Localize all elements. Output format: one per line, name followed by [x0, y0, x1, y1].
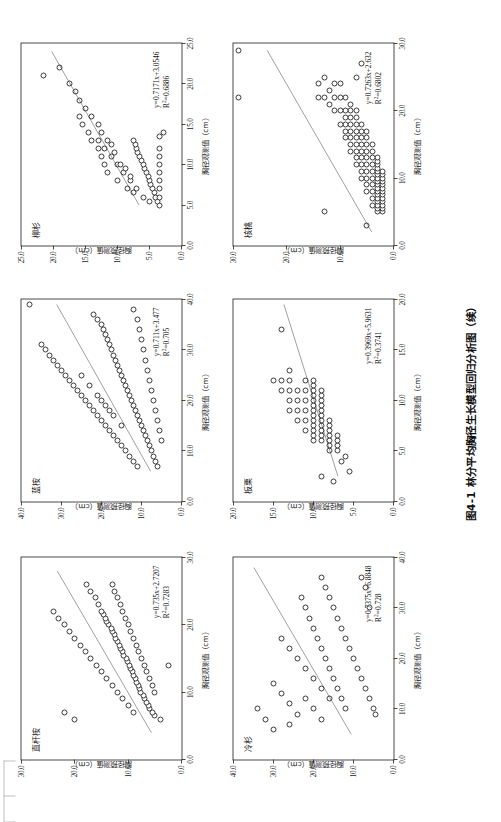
- x-axis-title: 胸径观测值（cm）: [410, 628, 421, 688]
- y-axis-tick-label: 30.0: [57, 507, 65, 519]
- x-axis-tick: [181, 450, 185, 451]
- regression-annotation: y=0.711x+3.477R2=0.705: [151, 307, 171, 356]
- y-axis-tick-label: 0.0: [389, 251, 397, 259]
- x-axis-tick-label: 0.0: [186, 497, 194, 505]
- x-axis-tick: [393, 177, 397, 178]
- x-axis-tick-label: 20.0: [186, 78, 194, 90]
- x-axis-tick-label: 30.0: [186, 551, 194, 563]
- regression-equation: y=0.3969x+5.9631: [363, 307, 372, 363]
- x-axis-tick: [393, 450, 397, 451]
- chart-panel-直杆桉: 0.010.020.030.00.010.020.030.0胸径观测值（cm）胸…: [14, 548, 222, 804]
- regression-annotation: y=0.735x+2.7207R2=0.7283: [151, 565, 171, 618]
- y-axis-tick-label: 15.0: [269, 507, 277, 519]
- x-axis-tick-label: 25.0: [186, 37, 194, 49]
- figure-panel-grid: 0.010.020.030.00.010.020.030.0胸径观测值（cm）胸…: [14, 34, 434, 804]
- regression-r-squared: R2=0.7283: [160, 565, 171, 618]
- x-axis-tick: [393, 708, 397, 709]
- x-axis-tick-label: 20.0: [186, 394, 194, 406]
- y-axis-tick-label: 10.0: [349, 765, 357, 777]
- x-axis-tick-label: 5.0: [398, 446, 406, 454]
- x-axis-tick-label: 30.0: [398, 602, 406, 614]
- x-axis-tick: [181, 557, 185, 558]
- x-axis-title: 胸径观测值（cm）: [198, 370, 209, 430]
- x-axis-tick-label: 30.0: [186, 344, 194, 356]
- regression-equation: y=0.7375x+6.8848: [363, 565, 372, 621]
- chart-panel-柳杉: 0.05.010.015.020.025.00.05.010.015.020.0…: [14, 34, 222, 290]
- regression-r-squared: R2=0.728: [372, 565, 383, 621]
- y-axis-tick: [353, 501, 354, 505]
- x-axis-tick-label: 0.0: [398, 497, 406, 505]
- plot-area: 0.010.020.030.040.00.010.020.030.040.0胸径…: [20, 298, 182, 502]
- x-axis-tick-label: 20.0: [186, 618, 194, 630]
- y-axis-tick: [141, 501, 142, 505]
- x-axis-title: 胸径观测值（cm）: [410, 114, 421, 174]
- y-axis-tick-label: 0.0: [389, 507, 397, 515]
- x-axis-tick-label: 10.0: [398, 394, 406, 406]
- x-axis-tick: [393, 607, 397, 608]
- x-axis-tick: [181, 400, 185, 401]
- x-axis-tick-label: 20.0: [398, 652, 406, 664]
- x-axis-tick-label: 0.0: [398, 241, 406, 249]
- x-axis-tick-label: 10.0: [186, 158, 194, 170]
- y-axis-tick: [181, 759, 182, 763]
- y-axis-tick: [149, 245, 150, 249]
- regression-equation: y=0.7171x+3.0546: [151, 51, 160, 107]
- x-axis-tick: [181, 83, 185, 84]
- y-axis-tick: [393, 501, 394, 505]
- y-axis-tick: [233, 245, 234, 249]
- y-axis-tick: [273, 759, 274, 763]
- chart-panel-核桃: 0.010.020.030.00.010.020.030.0胸径观测值（cm）胸…: [226, 34, 434, 290]
- x-axis-tick-label: 10.0: [398, 703, 406, 715]
- regression-equation: y=0.735x+2.7207: [151, 565, 160, 618]
- y-axis-tick-label: 30.0: [17, 765, 25, 777]
- y-axis-tick: [233, 501, 234, 505]
- y-axis-tick: [353, 759, 354, 763]
- y-axis-tick: [61, 501, 62, 505]
- y-axis-tick: [393, 759, 394, 763]
- x-axis-tick-label: 20.0: [398, 293, 406, 305]
- x-axis-tick-label: 40.0: [398, 551, 406, 563]
- y-axis-tick-label: 20.0: [49, 251, 57, 263]
- x-axis-tick-label: 5.0: [186, 200, 194, 208]
- y-axis-tick: [181, 501, 182, 505]
- regression-r-squared: R2=0.705: [160, 307, 171, 356]
- x-axis-tick-label: 10.0: [398, 172, 406, 184]
- chart-panel-蓝桉: 0.010.020.030.040.00.010.020.030.040.0胸径…: [14, 290, 222, 546]
- scan-edge-tick: [3, 760, 15, 761]
- x-axis-tick-label: 15.0: [186, 118, 194, 130]
- chart-panel-冷杉: 0.010.020.030.040.00.010.020.030.040.0胸径…: [226, 548, 434, 804]
- plot-area: 0.05.010.015.020.025.00.05.010.015.020.0…: [20, 42, 182, 246]
- x-axis-title: 胸径观测值（cm）: [198, 628, 209, 688]
- x-axis-tick: [181, 164, 185, 165]
- y-axis-tick-label: 40.0: [229, 765, 237, 777]
- x-axis-title: 胸径观测值（cm）: [410, 370, 421, 430]
- x-axis-tick: [181, 691, 185, 692]
- x-axis-tick-label: 40.0: [186, 293, 194, 305]
- plot-area: 0.010.020.030.00.010.020.030.0胸径观测值（cm）胸…: [232, 42, 394, 246]
- x-axis-tick-label: 0.0: [186, 755, 194, 763]
- scanned-page-root: 0.010.020.030.00.010.020.030.0胸径观测值（cm）胸…: [0, 0, 501, 822]
- x-axis-tick-label: 10.0: [186, 445, 194, 457]
- x-axis-tick: [393, 299, 397, 300]
- x-axis-tick: [393, 400, 397, 401]
- rotated-page-canvas: 0.010.020.030.00.010.020.030.0胸径观测值（cm）胸…: [0, 0, 501, 822]
- y-axis-tick-label: 20.0: [229, 507, 237, 519]
- regression-r-squared: R2=0.6802: [372, 51, 383, 104]
- x-axis-tick: [393, 43, 397, 44]
- regression-r-squared: R2=0.6886: [160, 51, 171, 107]
- y-axis-title: 胸径预测值（cm）: [283, 245, 343, 256]
- y-axis-tick-label: 0.0: [177, 765, 185, 773]
- y-axis-tick-label: 0.0: [177, 251, 185, 259]
- x-axis-tick-label: 0.0: [398, 755, 406, 763]
- regression-annotation: y=0.7263x+2.632R2=0.6802: [363, 51, 383, 104]
- page-sheet: 0.010.020.030.00.010.020.030.0胸径观测值（cm）胸…: [0, 0, 501, 822]
- y-axis-tick: [393, 245, 394, 249]
- y-axis-tick-label: 25.0: [17, 251, 25, 263]
- x-axis-tick: [393, 557, 397, 558]
- y-axis-tick: [273, 501, 274, 505]
- y-axis-tick-label: 30.0: [229, 251, 237, 263]
- y-axis-tick: [21, 759, 22, 763]
- y-axis-tick-label: 0.0: [389, 765, 397, 773]
- y-axis-tick: [53, 245, 54, 249]
- y-axis-title: 胸径预测值（cm）: [283, 759, 343, 770]
